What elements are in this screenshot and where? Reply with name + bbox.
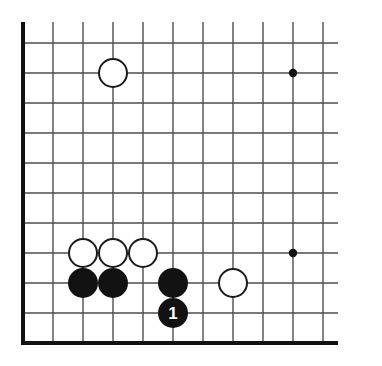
white-stone-c[interactable] [128,238,158,268]
white-stone-a[interactable] [68,238,98,268]
goban[interactable] [0,0,382,366]
goban-grid [0,0,382,366]
black-stone-c[interactable] [158,268,188,298]
black-stone-b[interactable] [98,268,128,298]
move-number-label: 1 [160,300,186,326]
white-stone-upper-left[interactable] [98,58,128,88]
star-point-upper-icon [289,69,297,77]
star-point-lower-icon [289,249,297,257]
white-stone-right[interactable] [218,268,248,298]
white-stone-b[interactable] [98,238,128,268]
black-stone-move-1[interactable]: 1 [158,298,188,328]
black-stone-a[interactable] [68,268,98,298]
go-board-figure: 1 [0,0,382,366]
